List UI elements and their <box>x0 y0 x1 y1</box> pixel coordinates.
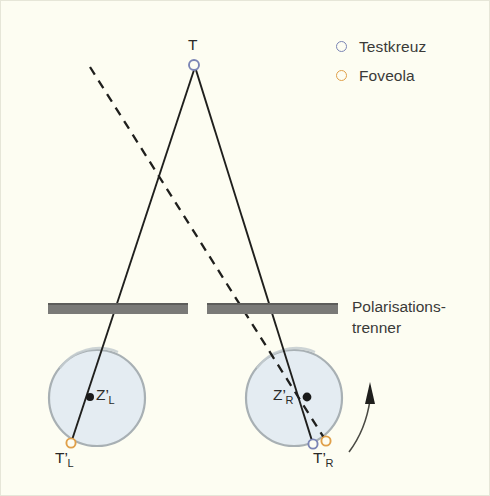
nodal-point-right <box>303 393 312 402</box>
label-left-image-sub: L <box>67 457 73 469</box>
label-right-image-sub: R <box>325 457 333 469</box>
right-eye <box>246 348 342 446</box>
polarizer-bar-left <box>48 303 188 314</box>
polarizer-bar-right <box>207 303 338 314</box>
legend-label-foveola: Foveola <box>359 67 415 85</box>
label-left-nodal-point: Z’L <box>96 386 115 406</box>
caption-line-2: trenner <box>352 317 446 338</box>
legend-item-foveola: Foveola <box>336 61 476 90</box>
label-right-nodal-point: Z’R <box>273 386 294 406</box>
caption-line-1: Polarisations- <box>352 296 446 317</box>
label-left-image-point: T’L <box>55 449 74 469</box>
polarizer-caption: Polarisations- trenner <box>352 296 446 338</box>
legend-item-testkreuz: Testkreuz <box>336 32 476 61</box>
rotation-arrow <box>349 382 375 452</box>
legend: Testkreuz Foveola <box>336 32 476 90</box>
legend-label-testkreuz: Testkreuz <box>359 38 426 56</box>
label-right-image-point: T’R <box>313 449 334 469</box>
right-image-point-testkreuz <box>308 439 317 448</box>
open-circle-icon <box>336 41 347 52</box>
open-circle-icon <box>336 70 347 81</box>
label-left-nodal-sub: L <box>108 394 114 406</box>
label-target: T <box>188 36 197 54</box>
right-image-point-foveola <box>321 436 330 445</box>
label-right-nodal-sub: R <box>285 394 293 406</box>
target-point-testkreuz <box>189 60 199 70</box>
left-image-point-foveola <box>66 438 75 447</box>
figure-container: T Z’L Z’R T’L T’R Testkreuz Foveola Pola… <box>0 0 490 496</box>
nodal-point-left <box>86 393 94 401</box>
